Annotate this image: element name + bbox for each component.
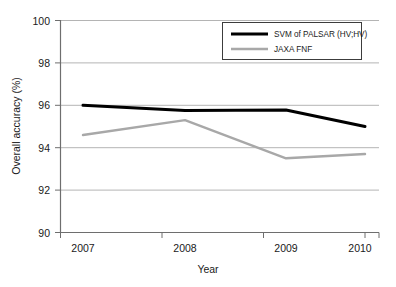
x-tick-label-2009: 2009: [274, 242, 298, 254]
y-tick-label-92: 92: [38, 184, 50, 196]
chart-figure: 100 98 96 94 92 90 2007 2008 2009 2010 Y…: [0, 0, 396, 287]
legend-label-svm-palsar: SVM of PALSAR (HV;HV): [274, 30, 368, 39]
x-tick-label-2008: 2008: [173, 242, 197, 254]
y-tick-label-90: 90: [38, 227, 50, 239]
y-axis-title: Overall accuracy (%): [10, 77, 22, 174]
y-tick-label-100: 100: [32, 15, 50, 27]
x-tick-label-2010: 2010: [348, 242, 372, 254]
legend: SVM of PALSAR (HV;HV) JAXA FNF: [223, 23, 368, 60]
y-tick-label-98: 98: [38, 57, 50, 69]
y-tick-label-94: 94: [38, 142, 50, 154]
line-chart: 100 98 96 94 92 90 2007 2008 2009 2010 Y…: [0, 0, 396, 287]
y-tick-label-96: 96: [38, 99, 50, 111]
x-axis-title: Year: [197, 263, 219, 275]
x-tick-label-2007: 2007: [71, 242, 95, 254]
legend-label-jaxa-fnf: JAXA FNF: [274, 45, 312, 54]
